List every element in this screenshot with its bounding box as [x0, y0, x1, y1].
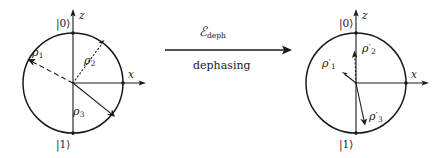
- ket-0-label-right: |0⟩: [339, 18, 353, 29]
- rho-2-prime-vector: [352, 51, 358, 84]
- script-e-symbol: ℰ: [199, 24, 207, 39]
- rho-3-prime-vector: [356, 83, 367, 126]
- dephasing-operator-label: ℰdeph: [199, 25, 226, 39]
- x-axis-label-left: x: [128, 69, 134, 80]
- rho-2-label: ρ2: [84, 55, 95, 68]
- rho-2-prime-label: ρ′2: [362, 43, 376, 56]
- rho-3-symbol: ρ: [73, 105, 79, 118]
- x-axis-label-right: x: [411, 69, 417, 80]
- ket-1-label-right: |1⟩: [339, 139, 353, 150]
- dephasing-caption: dephasing: [193, 60, 251, 71]
- tick-bottom-right: [354, 131, 358, 135]
- rho-1-prime-arrowhead: [342, 72, 348, 77]
- ket-1-label-left: |1⟩: [56, 139, 70, 150]
- rho-2-prime-subscript: 2: [371, 47, 376, 56]
- rho-3-prime-subscript: 3: [378, 115, 383, 124]
- ket-0-label-left: |0⟩: [56, 18, 70, 29]
- rho-2-symbol: ρ: [84, 54, 90, 67]
- z-axis-label-left: z: [79, 10, 85, 21]
- rho-1-symbol: ρ: [32, 46, 38, 59]
- dephasing-arrow: [165, 46, 292, 55]
- rho-3-subscript: 3: [80, 110, 85, 119]
- rho-3-prime-line: [356, 83, 364, 121]
- rho-1-vector: [28, 59, 74, 83]
- tick-right-left: [121, 81, 125, 85]
- rho-1-subscript: 1: [39, 51, 44, 60]
- rho-1-prime-subscript: 1: [331, 62, 336, 71]
- rho-3-label: ρ3: [73, 106, 84, 119]
- rho-1-prime-label: ρ′1: [322, 58, 336, 71]
- rho-1-label: ρ1: [32, 47, 43, 60]
- z-axis-label-right: z: [362, 10, 368, 21]
- rho-2-subscript: 2: [91, 59, 96, 68]
- dephasing-operator-subscript: deph: [207, 31, 226, 40]
- rho-3-prime-label: ρ′3: [369, 111, 383, 124]
- tick-top-left: [71, 31, 75, 35]
- rho-1-line: [33, 62, 74, 83]
- tick-right-right: [404, 81, 408, 85]
- tick-top-right: [354, 31, 358, 35]
- tick-bottom-left: [71, 131, 75, 135]
- rho-1-prime-line: [346, 75, 357, 83]
- rho-1-prime-vector: [342, 72, 356, 83]
- dephasing-bloch-figure: |0⟩ z x |1⟩ ρ1 ρ2 ρ3 ℰdeph dephasing |0⟩…: [0, 0, 446, 158]
